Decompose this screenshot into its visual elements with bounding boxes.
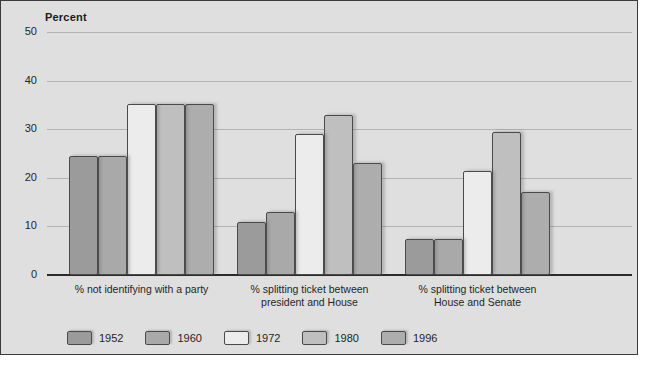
y-axis-tick-label: 50 <box>7 25 37 37</box>
bar-1952-group1 <box>69 156 98 275</box>
bar-1996-group1 <box>185 104 214 275</box>
bar-1952-group3 <box>405 239 434 275</box>
x-axis-group-label-line: % not identifying with a party <box>47 283 237 296</box>
x-axis-group-label-line: House and Senate <box>383 296 573 309</box>
plot-area: 01020304050 <box>47 32 632 275</box>
bar-1980-group3 <box>492 132 521 275</box>
bar-1972-group2 <box>295 134 324 275</box>
bar-1996-group3 <box>521 192 550 275</box>
x-axis-group-label: % not identifying with a party <box>47 283 237 296</box>
bar-1972-group3 <box>463 171 492 275</box>
legend-swatch-1980 <box>302 331 327 345</box>
y-axis-tick-label: 40 <box>7 74 37 86</box>
gridline <box>47 81 632 82</box>
x-axis-group-label-line: % splitting ticket between <box>383 283 573 296</box>
chart-screenshot: Percent 01020304050 19521960197219801996… <box>0 0 654 369</box>
legend-label: 1980 <box>334 332 358 344</box>
y-axis-tick-label: 20 <box>7 171 37 183</box>
y-axis-tick-label: 30 <box>7 122 37 134</box>
legend-swatch-1972 <box>224 331 249 345</box>
bar-1952-group2 <box>237 222 266 275</box>
legend-item-1972[interactable]: 1972 <box>224 331 280 345</box>
bar-1980-group2 <box>324 115 353 275</box>
bar-1960-group2 <box>266 212 295 275</box>
legend-label: 1972 <box>256 332 280 344</box>
y-axis-title: Percent <box>45 11 87 23</box>
chart-legend: 19521960197219801996 <box>67 331 459 345</box>
legend-label: 1960 <box>177 332 201 344</box>
x-axis-group-label-line: president and House <box>215 296 405 309</box>
x-axis-group-label-line: % splitting ticket between <box>215 283 405 296</box>
legend-label: 1952 <box>99 332 123 344</box>
bar-1972-group1 <box>127 104 156 275</box>
gridline <box>47 32 632 33</box>
legend-label: 1996 <box>413 332 437 344</box>
bar-1996-group2 <box>353 163 382 275</box>
legend-item-1980[interactable]: 1980 <box>302 331 358 345</box>
bar-1960-group1 <box>98 156 127 275</box>
legend-item-1952[interactable]: 1952 <box>67 331 123 345</box>
legend-item-1960[interactable]: 1960 <box>145 331 201 345</box>
legend-swatch-1996 <box>381 331 406 345</box>
chart-panel: Percent 01020304050 19521960197219801996… <box>0 0 638 355</box>
y-axis-tick-label: 0 <box>7 268 37 280</box>
bar-1960-group3 <box>434 239 463 275</box>
x-axis-group-label: % splitting ticket betweenpresident and … <box>215 283 405 309</box>
bar-1980-group1 <box>156 104 185 275</box>
y-axis-tick-label: 10 <box>7 219 37 231</box>
legend-swatch-1960 <box>145 331 170 345</box>
legend-swatch-1952 <box>67 331 92 345</box>
x-axis-group-label: % splitting ticket betweenHouse and Sena… <box>383 283 573 309</box>
legend-item-1996[interactable]: 1996 <box>381 331 437 345</box>
